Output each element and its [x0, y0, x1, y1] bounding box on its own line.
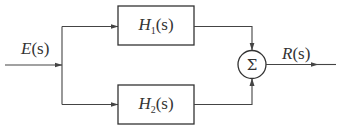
output-signal-label: R(s)	[282, 45, 310, 62]
arrow-h1-to-sum	[194, 27, 252, 51]
arrow-h2-to-sum	[194, 79, 252, 105]
input-signal-arg: (s)	[31, 39, 49, 58]
sigma-symbol: Σ	[247, 58, 258, 73]
block-h1-label: H1(s)	[138, 16, 173, 36]
input-signal-label: E(s)	[21, 40, 49, 57]
block-h1-arg: (s)	[156, 15, 174, 34]
block-h2-arg: (s)	[156, 94, 174, 113]
block-h1-name: H	[138, 15, 150, 34]
block-h2-name: H	[138, 94, 150, 113]
output-signal-arg: (s)	[292, 44, 310, 63]
output-signal-name: R	[282, 44, 292, 63]
input-signal-name: E	[21, 39, 31, 58]
block-h2-label: H2(s)	[138, 95, 173, 115]
